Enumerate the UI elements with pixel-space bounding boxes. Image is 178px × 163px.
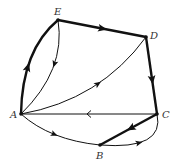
arrowhead-C-to-B xyxy=(125,123,137,134)
edge-A-to-D xyxy=(21,37,146,114)
node-label-E: E xyxy=(53,6,62,17)
node-A-dot xyxy=(19,112,23,116)
arrowheads xyxy=(23,24,157,147)
node-label-D: D xyxy=(149,30,158,41)
node-B-dot xyxy=(98,143,102,147)
nodes: A B C D E xyxy=(9,6,170,161)
arrowhead-A-to-D xyxy=(93,79,102,88)
arrowhead-A-to-B xyxy=(50,130,59,138)
directed-graph: A B C D E xyxy=(0,0,178,163)
node-D-dot xyxy=(144,35,148,39)
edges xyxy=(21,20,158,146)
node-label-A: A xyxy=(9,109,17,120)
node-C-dot xyxy=(155,112,159,116)
arrowhead-E-to-A xyxy=(50,60,58,69)
edge-D-to-C xyxy=(146,37,157,114)
edge-A-to-B xyxy=(21,114,100,145)
node-label-C: C xyxy=(162,109,170,120)
node-E-dot xyxy=(56,18,60,22)
arrowhead-B-to-C xyxy=(135,139,143,147)
node-label-B: B xyxy=(95,150,103,161)
